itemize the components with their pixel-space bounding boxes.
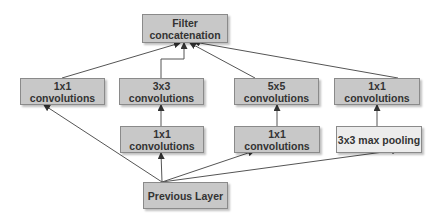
max-pooling-node: 3x3 max pooling bbox=[336, 126, 422, 153]
edge-top5x5-concat bbox=[190, 43, 255, 78]
top-3x3-conv-node: 3x3 convolutions bbox=[119, 78, 204, 105]
mid-1x1-conv-a-node: 1x1 convolutions bbox=[120, 126, 204, 153]
top-1x1-conv-node: 1x1 convolutions bbox=[20, 78, 105, 105]
edge-top3x3-concat bbox=[161, 43, 184, 78]
previous-layer-node: Previous Layer bbox=[143, 182, 228, 209]
concat-line2: concatenation bbox=[149, 29, 220, 41]
inception-diagram: Filter concatenation 1x1 convolutions 3x… bbox=[0, 0, 444, 220]
edge-top1x1pool-concat bbox=[194, 42, 398, 78]
concat-line1: Filter bbox=[172, 17, 198, 29]
filter-concatenation-node: Filter concatenation bbox=[142, 14, 228, 43]
edge-prev-mid1x1a bbox=[161, 153, 162, 182]
mid-1x1-conv-b-node: 1x1 convolutions bbox=[234, 126, 320, 153]
top-5x5-conv-node: 5x5 convolutions bbox=[234, 78, 319, 105]
top-1x1-pool-conv-node: 1x1 convolutions bbox=[334, 78, 420, 105]
edge-prev-mid1x1b bbox=[162, 151, 254, 182]
edge-top1x1-concat bbox=[62, 43, 180, 78]
edge-prev-pool bbox=[162, 150, 398, 182]
